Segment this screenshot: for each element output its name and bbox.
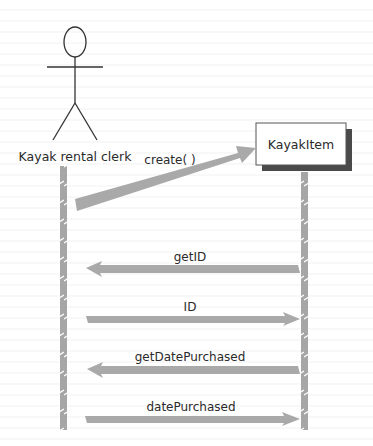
message-getid: getID (86, 250, 300, 277)
message-label: datePurchased (146, 400, 235, 414)
message-datepurchased: datePurchased (85, 400, 300, 426)
message-id: ID (86, 300, 300, 326)
message-getdatepurchased: getDatePurchased (87, 350, 300, 378)
sequence-diagram: Kayak rental clerk KayakItem create( ) g… (0, 0, 373, 446)
message-label: create( ) (144, 153, 195, 167)
object-lifeline (301, 172, 308, 430)
object-label: KayakItem (268, 137, 334, 152)
message-label: getID (174, 250, 206, 264)
actor-label: Kayak rental clerk (19, 149, 133, 164)
arrow-right-icon (85, 412, 300, 426)
arrow-left-icon (87, 362, 300, 378)
actor-left-leg (53, 103, 75, 140)
message-label: getDatePurchased (135, 350, 246, 364)
message-label: ID (184, 300, 197, 314)
object-box: KayakItem (256, 123, 352, 171)
actor-right-leg (75, 103, 97, 140)
arrow-right-icon (86, 312, 300, 326)
actor-head (64, 27, 86, 57)
actor-lifeline (60, 166, 67, 430)
stick-figure-icon (47, 27, 103, 140)
